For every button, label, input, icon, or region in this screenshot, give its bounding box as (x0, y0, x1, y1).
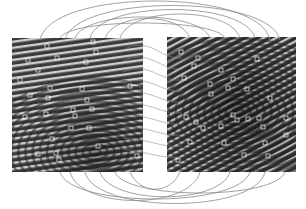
match-arc (40, 1, 270, 40)
fingerprint-match-diagram (0, 0, 306, 209)
match-arc (60, 172, 250, 199)
right-fingerprint-image (126, 37, 306, 186)
match-arc (130, 172, 180, 189)
match-arc (105, 19, 190, 39)
match-arc (115, 172, 285, 193)
match-arc (60, 23, 225, 38)
match-arc (75, 17, 210, 38)
